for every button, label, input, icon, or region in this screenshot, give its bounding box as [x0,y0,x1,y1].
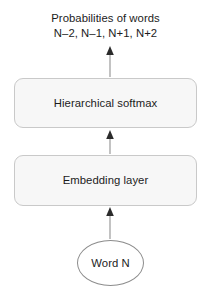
output-label-line-2: N–2, N–1, N+1, N+2 [0,26,211,41]
node-embedding-layer: Embedding layer [14,155,197,206]
node-word-n-label: Word N [91,257,129,270]
output-label: Probabilities of words N–2, N–1, N+1, N+… [0,11,211,40]
output-label-line-1: Probabilities of words [0,11,211,26]
node-embedding-layer-label: Embedding layer [63,174,149,187]
arrow-softmax-to-output [106,46,114,77]
node-hierarchical-softmax-label: Hierarchical softmax [54,97,157,110]
node-word-n: Word N [77,240,144,286]
arrow-embedding-to-softmax [106,130,114,154]
arrow-word-to-embedding [106,207,114,239]
flow-diagram: Probabilities of words N–2, N–1, N+1, N+… [0,0,211,297]
node-hierarchical-softmax: Hierarchical softmax [14,78,197,128]
